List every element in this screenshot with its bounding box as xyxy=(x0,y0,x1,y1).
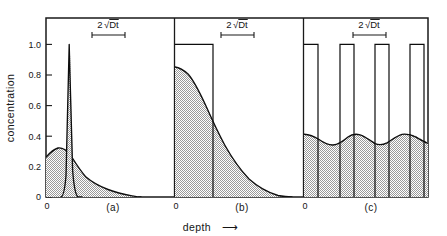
panel-a-scale-bar-label: 2√Dt xyxy=(97,19,119,30)
y-tick-label-0.6: 0.6 xyxy=(28,101,41,111)
y-tick-label-0: 0 xyxy=(36,192,41,202)
panel-c-scale-bar-label: 2√Dt xyxy=(358,19,380,30)
diffusion-figure: 1.0 0.8 0.6 0.4 0.2 0 concentration 2√Dt xyxy=(0,0,447,236)
panel-b: 2√Dt 0 (b) xyxy=(173,19,292,213)
x-axis-title-group: depth ⟶ xyxy=(183,221,239,233)
y-tick-label-0.2: 0.2 xyxy=(28,162,41,172)
panel-b-scale-radicand: Dt xyxy=(238,19,248,30)
panel-b-origin-label: 0 xyxy=(173,201,178,211)
panel-c-origin-label: 0 xyxy=(302,201,307,211)
x-axis-arrow-icon: ⟶ xyxy=(222,221,238,233)
panel-a-origin-label: 0 xyxy=(44,201,49,211)
panel-c-scale-radicand: Dt xyxy=(370,19,380,30)
figure-svg: 1.0 0.8 0.6 0.4 0.2 0 concentration 2√Dt xyxy=(0,0,447,236)
panel-b-scale-coefficient: 2 xyxy=(226,19,231,30)
y-axis: 1.0 0.8 0.6 0.4 0.2 0 concentration xyxy=(4,40,52,203)
panel-b-label: (b) xyxy=(235,202,249,213)
panel-a-scale-radicand: Dt xyxy=(109,19,119,30)
panel-a: 2√Dt 0 (a) xyxy=(44,19,141,213)
panel-a-scale-bar-group: 2√Dt xyxy=(92,19,125,38)
panel-c-label: (c) xyxy=(364,202,377,213)
x-axis-title: depth xyxy=(183,221,211,233)
panel-a-label: (a) xyxy=(106,202,120,213)
panel-b-diffused-shading xyxy=(175,67,290,197)
y-tick-label-0.8: 0.8 xyxy=(28,70,41,80)
panel-b-scale-bar-label: 2√Dt xyxy=(226,19,248,30)
panel-a-diffused-shading xyxy=(46,148,140,197)
panel-c-scale-coefficient: 2 xyxy=(358,19,363,30)
panel-a-scale-coefficient: 2 xyxy=(97,19,102,30)
y-tick-label-0.4: 0.4 xyxy=(28,132,41,142)
panel-c-scale-bar-group: 2√Dt xyxy=(353,19,386,38)
panel-b-scale-bar-group: 2√Dt xyxy=(221,19,254,38)
y-tick-label-1.0: 1.0 xyxy=(28,40,41,50)
y-axis-title: concentration xyxy=(4,74,16,142)
panel-c: 2√Dt 0 (c) xyxy=(302,19,428,213)
